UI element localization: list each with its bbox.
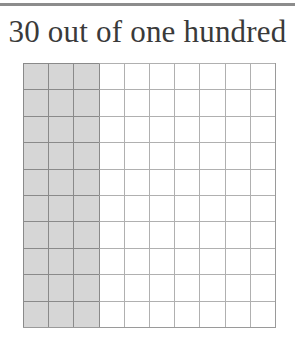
grid-cell	[124, 63, 149, 89]
grid-cell	[124, 221, 149, 247]
grid-cell	[250, 301, 275, 327]
grid-cell	[199, 63, 224, 89]
grid-cell	[199, 248, 224, 274]
grid-cell	[225, 169, 250, 195]
grid-cell	[199, 274, 224, 300]
grid-cell	[149, 116, 174, 142]
grid-cell	[174, 301, 199, 327]
grid-cell	[199, 169, 224, 195]
grid-cell	[225, 274, 250, 300]
grid-cell	[199, 301, 224, 327]
grid-cell	[149, 142, 174, 168]
grid-cell	[174, 89, 199, 115]
grid-cell	[225, 221, 250, 247]
grid-cell	[225, 142, 250, 168]
grid-cell	[99, 248, 124, 274]
shaded-cell	[23, 274, 48, 300]
grid-cell	[250, 248, 275, 274]
grid-cell	[199, 116, 224, 142]
grid-cell	[149, 89, 174, 115]
grid-cell	[225, 89, 250, 115]
grid-cell	[174, 63, 199, 89]
shaded-cell	[48, 221, 73, 247]
shaded-cell	[23, 89, 48, 115]
grid-cell	[124, 89, 149, 115]
shaded-cell	[48, 116, 73, 142]
grid-cell	[199, 195, 224, 221]
grid-cell	[199, 89, 224, 115]
grid-cell	[99, 142, 124, 168]
grid-cell	[99, 274, 124, 300]
grid-cell	[124, 142, 149, 168]
grid-cell	[225, 248, 250, 274]
shaded-cell	[23, 248, 48, 274]
grid-cell	[199, 142, 224, 168]
grid-cell	[149, 301, 174, 327]
grid-cell	[149, 221, 174, 247]
grid-cell	[199, 221, 224, 247]
shaded-cell	[48, 169, 73, 195]
grid-cell	[99, 301, 124, 327]
hundred-grid	[23, 63, 276, 328]
grid-cell	[174, 248, 199, 274]
shaded-cell	[73, 142, 98, 168]
grid-cell	[225, 116, 250, 142]
shaded-cell	[48, 63, 73, 89]
shaded-cell	[48, 195, 73, 221]
shaded-cell	[23, 169, 48, 195]
grid-cell	[99, 169, 124, 195]
grid-cell	[225, 63, 250, 89]
shaded-cell	[73, 169, 98, 195]
diagram-title: 30 out of one hundred	[0, 14, 295, 50]
grid-cell	[99, 63, 124, 89]
shaded-cell	[48, 301, 73, 327]
grid-cell	[149, 248, 174, 274]
top-rule	[0, 3, 295, 6]
grid-cell	[250, 221, 275, 247]
shaded-cell	[73, 301, 98, 327]
shaded-cell	[23, 221, 48, 247]
grid-cell	[174, 116, 199, 142]
grid-cell	[124, 274, 149, 300]
grid-cell	[225, 195, 250, 221]
shaded-cell	[73, 116, 98, 142]
shaded-cell	[48, 274, 73, 300]
grid-cell	[99, 221, 124, 247]
grid-cell	[250, 274, 275, 300]
grid-cell	[174, 195, 199, 221]
shaded-cell	[73, 89, 98, 115]
grid-cell	[149, 274, 174, 300]
shaded-cell	[48, 89, 73, 115]
grid-cell	[149, 169, 174, 195]
shaded-cell	[73, 274, 98, 300]
grid-cell	[124, 248, 149, 274]
shaded-cell	[23, 301, 48, 327]
grid-cell	[174, 169, 199, 195]
grid-cell	[149, 63, 174, 89]
shaded-cell	[73, 195, 98, 221]
grid-cell	[124, 116, 149, 142]
grid-cell	[250, 169, 275, 195]
shaded-cell	[23, 116, 48, 142]
grid-cell	[225, 301, 250, 327]
grid-cell	[174, 142, 199, 168]
shaded-cell	[73, 248, 98, 274]
grid-cell	[99, 89, 124, 115]
grid-cell	[124, 301, 149, 327]
grid-cell	[149, 195, 174, 221]
grid-cell	[250, 89, 275, 115]
grid-cell	[99, 116, 124, 142]
grid-cell	[250, 116, 275, 142]
grid-cell	[250, 142, 275, 168]
shaded-cell	[73, 221, 98, 247]
grid-cell	[250, 63, 275, 89]
grid-cell	[250, 195, 275, 221]
grid-cell	[124, 169, 149, 195]
shaded-cell	[48, 248, 73, 274]
grid-cell	[99, 195, 124, 221]
shaded-cell	[23, 195, 48, 221]
shaded-cell	[23, 63, 48, 89]
shaded-cell	[73, 63, 98, 89]
shaded-cell	[23, 142, 48, 168]
grid-cell	[174, 274, 199, 300]
